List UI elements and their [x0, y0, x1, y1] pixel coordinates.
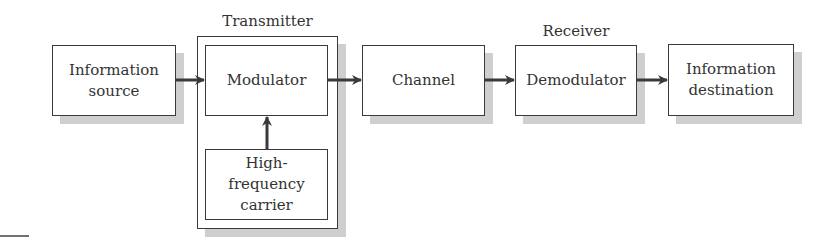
arrows-layer	[0, 0, 837, 248]
communication-system-diagram: Information source Transmitter Modulator…	[0, 0, 837, 248]
